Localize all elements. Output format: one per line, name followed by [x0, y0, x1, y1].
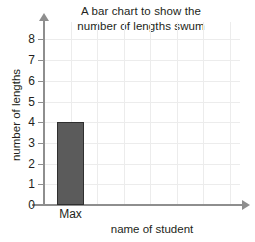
gridline-vertical — [177, 22, 178, 205]
gridline-vertical — [124, 22, 125, 205]
y-axis-tick-label-wrap: 8 — [0, 33, 35, 45]
gridline-horizontal — [44, 81, 240, 82]
y-axis-arrow-icon — [39, 13, 49, 21]
bar-chart: A bar chart to show the number of length… — [0, 0, 255, 242]
y-axis-line — [43, 20, 45, 206]
y-axis-tick-mark — [38, 122, 44, 123]
x-axis-category-label: Max — [37, 207, 104, 221]
y-axis-tick-mark — [38, 60, 44, 61]
y-axis-tick-mark — [38, 205, 44, 206]
gridline-vertical — [230, 22, 231, 205]
gridline-vertical — [150, 22, 151, 205]
y-axis-tick-mark — [38, 39, 44, 40]
y-axis-tick-mark — [38, 164, 44, 165]
chart-title-line-1: A bar chart to show the — [38, 4, 244, 19]
y-axis-tick-mark — [38, 81, 44, 82]
x-axis-arrow-icon — [242, 200, 250, 210]
y-axis-tick-label: 0 — [5, 199, 35, 211]
gridline-vertical — [203, 22, 204, 205]
gridline-horizontal — [44, 39, 240, 40]
gridline-vertical — [97, 22, 98, 205]
bar — [57, 122, 84, 205]
gridline-horizontal — [44, 60, 240, 61]
y-axis-tick-label: 8 — [5, 33, 35, 45]
y-axis-title: number of lengths — [10, 45, 22, 185]
y-axis-tick-mark — [38, 143, 44, 144]
x-axis-title: name of student — [76, 223, 228, 235]
y-axis-tick-label-wrap: 0 — [0, 199, 35, 211]
y-axis-tick-mark — [38, 102, 44, 103]
y-axis-tick-mark — [38, 184, 44, 185]
gridline-horizontal — [44, 102, 240, 103]
